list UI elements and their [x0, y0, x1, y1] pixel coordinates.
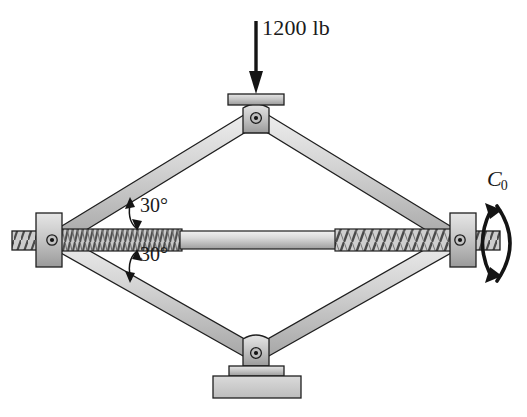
right-joint-block	[450, 213, 500, 267]
left-pin-center-dot	[50, 238, 54, 242]
top-pin-center-dot	[254, 116, 258, 120]
moment-subscript: 0	[501, 178, 508, 193]
top-load-pad	[228, 94, 284, 105]
power-screw	[60, 229, 454, 251]
left-joint-block	[12, 213, 62, 267]
screw-thread-right	[335, 229, 454, 251]
load-arrow-icon	[249, 21, 263, 94]
arm-lower-right	[250, 234, 460, 361]
moment-symbol: C	[487, 166, 502, 191]
base-plate	[229, 366, 284, 376]
scissor-jack-diagram	[0, 0, 527, 417]
diagram-canvas: 1200 lb 30° 30° C0	[0, 0, 527, 417]
arm-upper-right	[250, 110, 460, 246]
bottom-pin-center-dot	[254, 351, 258, 355]
screw-shaft-smooth	[180, 231, 337, 249]
angle-label-lower: 30°	[140, 243, 168, 266]
applied-load-label: 1200 lb	[262, 15, 330, 41]
angle-label-upper: 30°	[140, 194, 168, 217]
ground-block	[213, 376, 301, 398]
right-pin-center-dot	[458, 238, 462, 242]
arm-upper-left	[52, 110, 262, 246]
moment-label: C0	[487, 166, 508, 194]
